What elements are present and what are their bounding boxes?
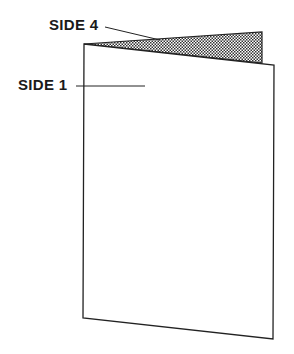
folded-card-diagram: SIDE 4 SIDE 1 [0, 0, 294, 354]
diagram-drawing [0, 0, 294, 354]
side1-front-page [83, 44, 274, 339]
side4-leader-line [105, 27, 160, 40]
side1-label: SIDE 1 [18, 76, 67, 93]
side4-label: SIDE 4 [49, 16, 98, 33]
